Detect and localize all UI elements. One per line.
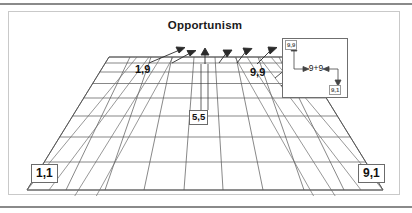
inset-label-9-9: 9,9 [285, 40, 297, 50]
inset-panel: 9,9 9,1 9+9 [282, 38, 348, 98]
inset-sum-text: 9+9 [283, 63, 349, 73]
top-horizontal-rule [0, 3, 412, 5]
label-9-1: 9,1 [358, 164, 385, 183]
label-9-9: 9,9 [250, 66, 265, 78]
bottom-horizontal-rule [0, 206, 412, 208]
figure-page: Opportunism [0, 0, 412, 213]
label-5-5: 5,5 [189, 110, 208, 125]
inset-label-9-1: 9,1 [329, 85, 341, 95]
top-arrows [149, 47, 301, 86]
label-1-1: 1,1 [31, 164, 58, 183]
label-1-9: 1,9 [135, 63, 150, 75]
figure-frame: Opportunism [8, 11, 400, 195]
center-leader-lines [201, 64, 208, 110]
